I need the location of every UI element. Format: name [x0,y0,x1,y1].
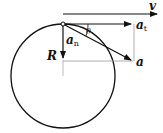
label-an: an [66,33,79,48]
label-a: a [136,55,144,69]
label-v: v [149,0,157,13]
diagram-svg: v at an R a θ [0,0,163,133]
particle-point [61,22,65,26]
label-R: R [46,49,57,63]
diagram: v at an R a θ [0,0,163,133]
label-at: at [136,18,148,33]
label-theta: θ [86,27,91,36]
